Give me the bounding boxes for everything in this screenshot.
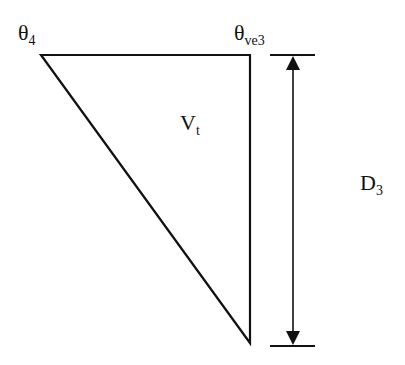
label-v-t: Vt <box>180 110 200 138</box>
label-theta-4: θ4 <box>18 20 36 48</box>
arrowhead-down-icon <box>286 331 300 345</box>
diagram-canvas: θ4 θve3 Vt D3 <box>0 0 405 365</box>
arrowhead-up-icon <box>286 56 300 70</box>
triangle-shape <box>41 55 250 343</box>
dimension-line <box>270 55 315 346</box>
label-d-3: D3 <box>360 170 383 198</box>
label-theta-ve3: θve3 <box>234 20 265 48</box>
